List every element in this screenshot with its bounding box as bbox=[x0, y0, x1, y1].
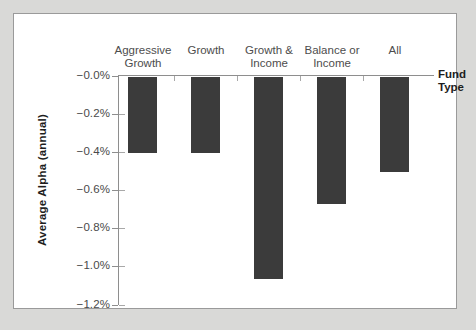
category-label: All bbox=[352, 44, 438, 57]
y-tick-mark-inner bbox=[119, 305, 125, 306]
chart-panel: Average Alpha (annual) Fund Type −0.0%−0… bbox=[13, 13, 457, 309]
y-tick-mark bbox=[112, 76, 118, 77]
y-tick-label: −0.8% bbox=[50, 221, 110, 233]
y-tick-mark bbox=[112, 114, 118, 115]
x-axis-title: Fund Type bbox=[438, 68, 476, 93]
y-tick-label-wrap: −1.0% bbox=[44, 259, 110, 273]
bar bbox=[317, 77, 346, 205]
y-tick-mark bbox=[112, 305, 118, 306]
bar bbox=[254, 77, 283, 279]
x-tick-mark bbox=[363, 76, 364, 81]
x-tick-mark bbox=[237, 76, 238, 81]
y-tick-label-wrap: −0.0% bbox=[44, 69, 110, 83]
y-tick-label: −0.6% bbox=[50, 183, 110, 195]
y-tick-mark bbox=[112, 266, 118, 267]
y-tick-mark bbox=[112, 228, 118, 229]
y-axis-title: Average Alpha (annual) bbox=[36, 100, 48, 260]
y-tick-label-wrap: −1.2% bbox=[44, 298, 110, 312]
y-tick-mark bbox=[112, 152, 118, 153]
plot-area: Average Alpha (annual) Fund Type −0.0%−0… bbox=[14, 14, 476, 330]
bar bbox=[191, 77, 220, 153]
y-tick-label: −1.0% bbox=[50, 259, 110, 271]
y-tick-label-wrap: −0.4% bbox=[44, 145, 110, 159]
x-tick-mark bbox=[300, 76, 301, 81]
y-tick-label: −0.0% bbox=[50, 69, 110, 81]
bar bbox=[128, 77, 157, 153]
y-tick-label: −0.2% bbox=[50, 107, 110, 119]
y-tick-mark-inner bbox=[119, 228, 125, 229]
bar bbox=[380, 77, 409, 172]
x-tick-mark bbox=[174, 76, 175, 81]
y-tick-label-wrap: −0.8% bbox=[44, 221, 110, 235]
y-tick-label: −1.2% bbox=[50, 298, 110, 310]
y-tick-mark bbox=[112, 190, 118, 191]
y-tick-mark-inner bbox=[119, 266, 125, 267]
y-tick-label-wrap: −0.2% bbox=[44, 107, 110, 121]
y-tick-label-wrap: −0.6% bbox=[44, 183, 110, 197]
y-tick-mark-inner bbox=[119, 190, 125, 191]
y-tick-label: −0.4% bbox=[50, 145, 110, 157]
y-tick-mark-inner bbox=[119, 152, 125, 153]
figure-root: Average Alpha (annual) Fund Type −0.0%−0… bbox=[0, 0, 476, 330]
y-tick-mark-inner bbox=[119, 114, 125, 115]
